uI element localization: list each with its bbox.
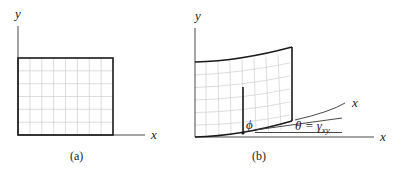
- theta-subscript: xy: [321, 125, 330, 135]
- panel-b-x-label: x: [379, 129, 386, 144]
- panel-a-x-label: x: [150, 127, 157, 142]
- panel-b-y-label: y: [193, 8, 201, 23]
- theta-equals-gamma: θ = γ: [295, 118, 323, 133]
- panel-b-rotated-x-label: x: [351, 95, 358, 110]
- panel-a-grid: [18, 58, 113, 135]
- panel-b-phi-point: [241, 131, 244, 134]
- panel-a-y-label: y: [13, 6, 21, 21]
- panel-b-phi-label: ϕ: [246, 117, 253, 132]
- panel-a: y x (a): [13, 6, 157, 163]
- shear-strain-figure: y x (a): [0, 0, 403, 172]
- panel-b-caption: (b): [252, 149, 266, 163]
- panel-b-element-top: [195, 47, 292, 62]
- panel-b: y x x ϕ θ = γxy (b): [193, 8, 386, 163]
- panel-a-caption: (a): [70, 149, 83, 163]
